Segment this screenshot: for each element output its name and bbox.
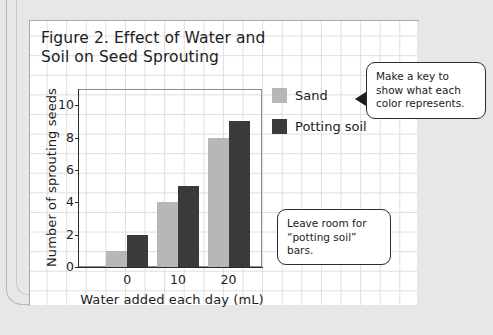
- legend-label: Sand: [295, 88, 328, 103]
- callout-key-pointer-icon: [355, 92, 366, 106]
- worksheet-page: Figure 2. Effect of Water and Soil on Se…: [0, 0, 493, 335]
- y-tick-label: 10: [50, 97, 74, 112]
- x-axis-line: [78, 267, 263, 268]
- sheet-left-rule: [29, 20, 30, 306]
- callout-make-a-key: Make a key to show what each color repre…: [366, 62, 486, 119]
- y-tick-label: 8: [50, 130, 74, 145]
- legend-swatch-icon: [272, 88, 287, 103]
- bar-potting-soil-0: [127, 235, 148, 267]
- chart-legend: SandPotting soil: [272, 88, 367, 150]
- x-tick-label: 20: [209, 272, 249, 287]
- legend-item-sand: Sand: [272, 88, 367, 103]
- bar-potting-soil-10: [178, 186, 199, 267]
- sheet-top-rule: [29, 20, 419, 21]
- legend-swatch-icon: [272, 119, 287, 134]
- callout-leave-room: Leave room for “potting soil” bars.: [277, 209, 391, 265]
- y-tick-label: 6: [50, 162, 74, 177]
- legend-item-potting-soil: Potting soil: [272, 119, 367, 134]
- bar-sand-20: [208, 138, 229, 267]
- legend-label: Potting soil: [295, 119, 367, 134]
- bar-sand-0: [106, 251, 127, 267]
- y-tick-label: 2: [50, 227, 74, 242]
- y-tick-label: 0: [50, 259, 74, 274]
- bar-sand-10: [157, 202, 178, 267]
- bar-potting-soil-20: [229, 121, 250, 267]
- x-axis-title: Water added each day (mL): [58, 292, 286, 307]
- bars-layer: [79, 89, 262, 267]
- y-tick-mark: [75, 267, 79, 268]
- callout-key-text: Make a key to show what each color repre…: [376, 70, 477, 111]
- x-tick-label: 10: [158, 272, 198, 287]
- x-tick-label: 0: [107, 272, 147, 287]
- y-tick-label: 4: [50, 194, 74, 209]
- callout-room-text: Leave room for “potting soil” bars.: [287, 217, 382, 258]
- figure-title: Figure 2. Effect of Water and Soil on Se…: [41, 29, 291, 67]
